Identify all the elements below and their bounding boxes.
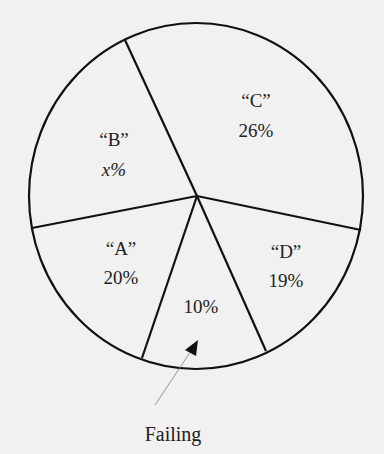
divider-b-c	[125, 40, 197, 196]
slice-c-name: “C”	[241, 90, 271, 111]
failing-annotation-label: Failing	[145, 423, 202, 446]
slice-d-value: 19%	[269, 270, 304, 291]
pie-chart: “C” 26% “B” x% “A” 20% “D” 19% 10% Faili…	[0, 0, 384, 454]
slice-a-name: “A”	[106, 238, 137, 259]
slice-b-name: “B”	[99, 129, 129, 150]
slice-d-name: “D”	[271, 241, 302, 262]
divider-a-b	[32, 196, 197, 228]
arrowhead-icon	[185, 340, 198, 356]
slice-b-value: x%	[101, 159, 126, 180]
slice-a-value: 20%	[104, 267, 139, 288]
slice-c-value: 26%	[239, 120, 274, 141]
divider-c-d	[197, 196, 361, 230]
divider-failing-d	[197, 196, 266, 351]
annotation-arrow-line	[155, 348, 193, 405]
divider-a-failing	[142, 196, 197, 358]
slice-failing-value: 10%	[184, 296, 219, 317]
